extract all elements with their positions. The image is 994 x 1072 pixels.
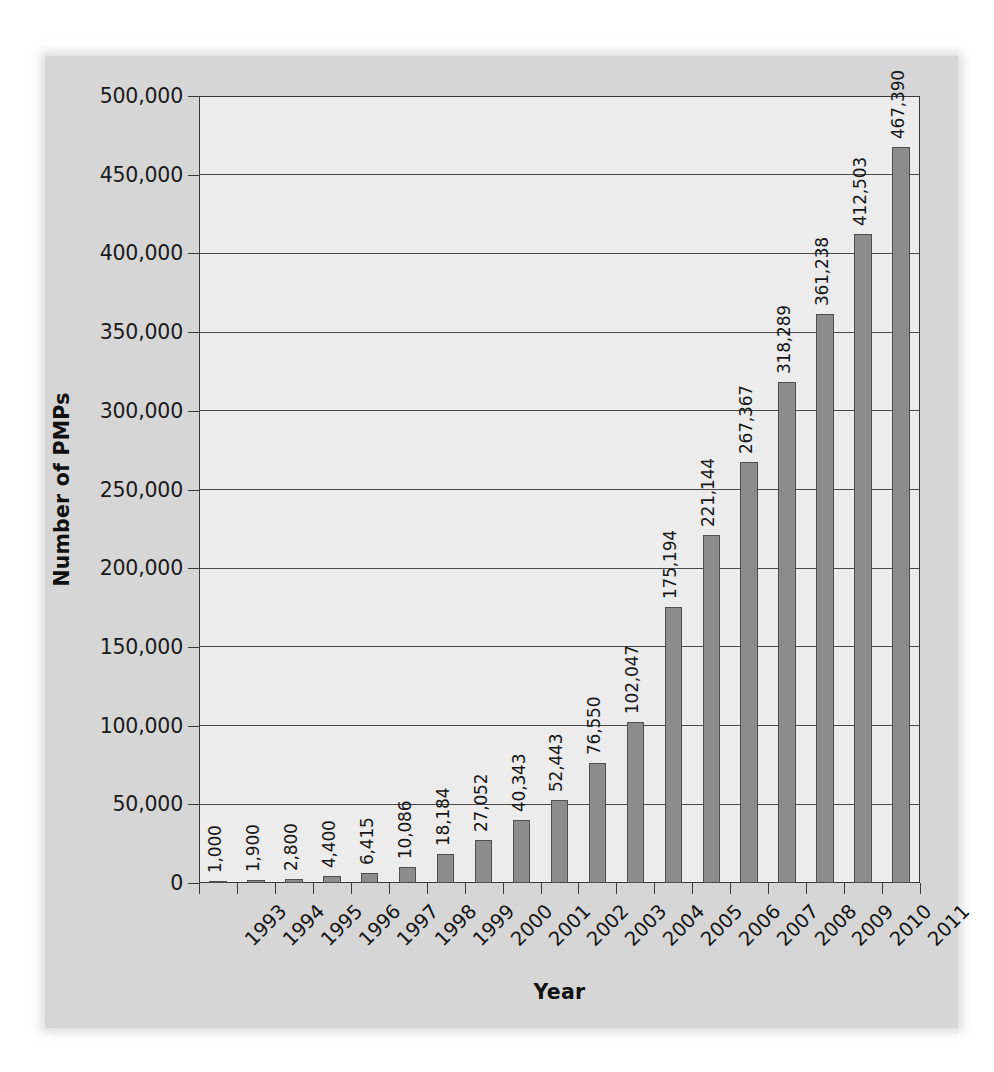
y-axis-tick-label: 0 [170,871,183,895]
x-axis-tick-label: 2001 [544,900,595,951]
bar-slot: 27,052 [465,96,503,883]
x-axis-tick-label: 2003 [620,900,671,951]
x-axis-ticks-layer: 1993199419951996199719981999200020012002… [199,883,920,1033]
x-axis-title: Year [199,980,920,1004]
bar[interactable] [740,462,757,883]
x-axis-tick-mark [654,883,655,894]
bar-slot: 102,047 [616,96,654,883]
bar-value-label: 18,184 [433,788,453,846]
y-axis-tick-label: 500,000 [100,84,183,108]
x-axis-tick-mark [920,883,921,894]
y-axis-tick-label: 450,000 [100,163,183,187]
bar-value-label: 102,047 [622,645,642,714]
bar-value-label: 10,086 [395,801,415,859]
bars-layer: 1,0001,9002,8004,4006,41510,08618,18427,… [199,96,920,883]
chart-panel: Number of PMPs 050,000100,000150,000200,… [45,56,958,1028]
y-axis-tick-label: 350,000 [100,320,183,344]
bar[interactable] [816,314,833,883]
bar[interactable] [361,873,378,883]
bar[interactable] [513,820,530,883]
x-axis-tick-mark [692,883,693,894]
bar[interactable] [627,722,644,883]
y-axis-tick-label: 400,000 [100,241,183,265]
x-axis-tick-mark [806,883,807,894]
x-axis-tick-label: 1998 [430,900,481,951]
bar-value-label: 4,400 [319,820,339,868]
bar-value-label: 412,503 [850,157,870,226]
x-axis-tick-mark [616,883,617,894]
x-axis-tick-mark [275,883,276,894]
x-axis-tick-mark [578,883,579,894]
x-axis-tick-mark [768,883,769,894]
bar-value-label: 76,550 [584,696,604,754]
y-axis-tick-mark [188,253,199,254]
bar[interactable] [703,535,720,883]
bar-slot: 76,550 [578,96,616,883]
y-axis-tick-mark [188,332,199,333]
x-axis-tick-label: 2004 [658,900,709,951]
x-axis-tick-label: 2007 [772,900,823,951]
x-axis-tick-mark [465,883,466,894]
y-axis-tick-label: 150,000 [100,635,183,659]
y-axis-tick-labels: 050,000100,000150,000200,000250,000300,0… [45,96,183,883]
bar[interactable] [589,763,606,883]
bar-value-label: 2,800 [281,823,301,871]
bar-value-label: 318,289 [774,305,794,374]
x-axis-tick-label: 2010 [886,900,937,951]
bar[interactable] [437,854,454,883]
bar-value-label: 52,443 [546,734,566,792]
x-axis-tick-label: 1996 [354,900,405,951]
bar-slot: 52,443 [541,96,579,883]
x-axis-tick-label: 2000 [506,900,557,951]
bar-value-label: 1,000 [205,825,225,873]
bar[interactable] [551,800,568,883]
y-axis-tick-mark [188,647,199,648]
y-axis-tick-mark [188,568,199,569]
bar-slot: 2,800 [275,96,313,883]
bar[interactable] [778,382,795,883]
bar-value-label: 40,343 [509,753,529,811]
bar[interactable] [854,234,871,883]
bar[interactable] [475,840,492,883]
x-axis-tick-label: 1997 [392,900,443,951]
bar-slot: 467,390 [882,96,920,883]
bar-value-label: 221,144 [698,458,718,527]
bar-value-label: 467,390 [888,70,908,139]
bar-value-label: 361,238 [812,238,832,307]
bar-slot: 1,000 [199,96,237,883]
y-axis-tick-label: 100,000 [100,714,183,738]
x-axis-tick-label: 1995 [317,900,368,951]
y-axis-tick-mark [188,96,199,97]
x-axis-tick-label: 1994 [279,900,330,951]
bar[interactable] [399,867,416,883]
x-axis-tick-label: 2002 [582,900,633,951]
x-axis-tick-mark [199,883,200,894]
x-axis-tick-mark [351,883,352,894]
bar-slot: 361,238 [806,96,844,883]
y-axis-tick-mark [188,883,199,884]
x-axis-tick-label: 2008 [810,900,861,951]
x-axis-tick-mark [730,883,731,894]
bar[interactable] [892,147,909,883]
bar-value-label: 6,415 [357,817,377,865]
x-axis-tick-mark [882,883,883,894]
x-axis-tick-mark [237,883,238,894]
bar-value-label: 175,194 [660,530,680,599]
x-axis-tick-label: 2006 [734,900,785,951]
bar-slot: 267,367 [730,96,768,883]
y-axis-tick-mark [188,175,199,176]
bar-slot: 40,343 [503,96,541,883]
x-axis-tick-label: 2009 [848,900,899,951]
bar-slot: 18,184 [427,96,465,883]
x-axis-tick-label: 2005 [696,900,747,951]
x-axis-tick-mark [389,883,390,894]
y-axis-tick-label: 200,000 [100,556,183,580]
bar-slot: 1,900 [237,96,275,883]
bar-slot: 175,194 [654,96,692,883]
y-axis-tick-mark [188,490,199,491]
bar-value-label: 27,052 [471,774,491,832]
bar[interactable] [323,876,340,883]
bar[interactable] [665,607,682,883]
x-axis-tick-label: 1993 [241,900,292,951]
bar-slot: 221,144 [692,96,730,883]
